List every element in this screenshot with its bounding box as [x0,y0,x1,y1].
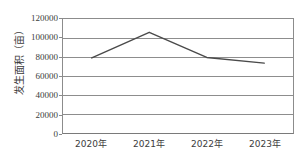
y-tick-mark [59,57,62,58]
y-tick-mark [59,18,62,19]
x-tick-label: 2022年 [191,139,223,149]
data-series-line [63,19,293,133]
y-tick-label: 80000 [36,52,59,61]
line-chart: 发生面积（亩） 02000040000600008000010000012000… [0,0,308,162]
plot-area [62,18,294,134]
y-tick-label: 100000 [31,33,58,42]
y-tick-label: 0 [54,130,59,139]
y-tick-label: 20000 [36,110,59,119]
y-tick-mark [59,95,62,96]
y-tick-mark [59,134,62,135]
y-tick-mark [59,37,62,38]
x-tick-label: 2021年 [133,139,165,149]
y-axis-tick-labels: 020000400006000080000100000120000 [14,10,60,134]
x-tick-label: 2023年 [249,139,281,149]
y-tick-label: 60000 [36,72,59,81]
y-tick-label: 120000 [31,14,58,23]
y-tick-mark [59,76,62,77]
y-tick-mark [59,115,62,116]
y-tick-label: 40000 [36,91,59,100]
x-tick-label: 2020年 [75,139,107,149]
x-axis-tick-labels: 2020年2021年2022年2023年 [62,139,294,153]
